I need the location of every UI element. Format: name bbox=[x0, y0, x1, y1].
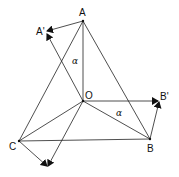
label-O: O bbox=[85, 90, 93, 101]
segment-AB bbox=[83, 21, 150, 139]
point-C bbox=[18, 140, 20, 142]
angle-label-alpha-1: α bbox=[72, 56, 78, 66]
point-A bbox=[82, 20, 84, 22]
segment-CA bbox=[19, 21, 83, 141]
segment-OB bbox=[83, 101, 150, 139]
point-O bbox=[82, 100, 84, 102]
arrow-C-to-C-prime bbox=[19, 141, 47, 166]
segment-BC bbox=[19, 139, 150, 141]
arrow-A-to-A-prime bbox=[47, 21, 83, 31]
label-B: B bbox=[147, 143, 154, 154]
segment-OC bbox=[19, 101, 83, 141]
arrow-OA-prime bbox=[47, 34, 83, 101]
point-B bbox=[149, 138, 151, 140]
arrow-OC-prime bbox=[48, 101, 83, 166]
angle-label-alpha-2: α bbox=[116, 108, 122, 118]
label-C: C bbox=[9, 141, 16, 152]
label-A: A bbox=[79, 7, 86, 18]
label-A-prime: A' bbox=[36, 26, 45, 37]
label-B-prime: B' bbox=[160, 91, 169, 102]
rotation-diagram: A A' O B' B C α α bbox=[0, 0, 179, 177]
arrow-B-to-B-prime bbox=[150, 102, 159, 139]
